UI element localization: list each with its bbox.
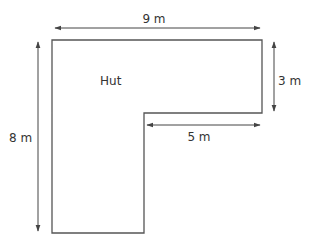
- top-width-label: 9 m: [142, 12, 165, 26]
- hut-diagram: 9 m 3 m 5 m 8 m Hut: [0, 0, 314, 242]
- hut-label: Hut: [100, 74, 122, 88]
- left-height-label: 8 m: [9, 131, 32, 145]
- hut-outline: [52, 40, 262, 233]
- right-height-label: 3 m: [278, 74, 301, 88]
- inner-width-label: 5 m: [187, 130, 210, 144]
